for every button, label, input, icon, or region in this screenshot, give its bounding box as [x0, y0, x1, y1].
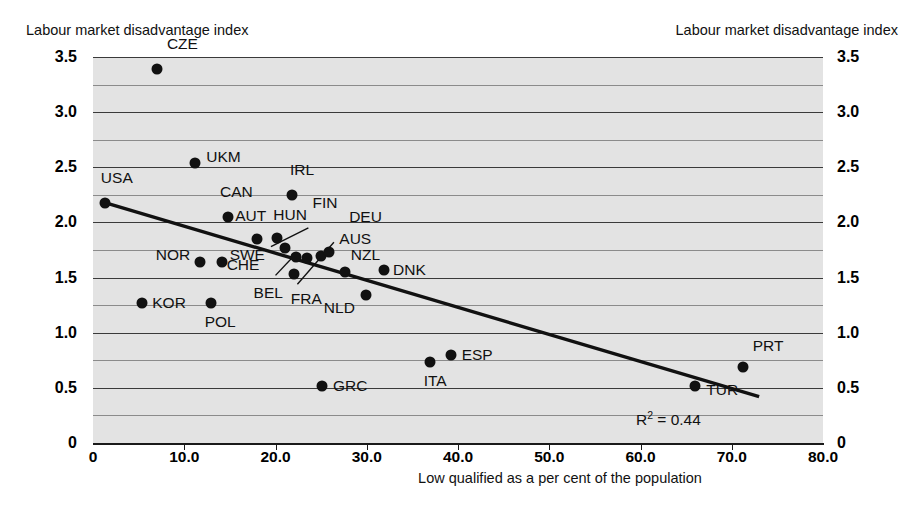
r-squared-exponent: 2 [647, 409, 653, 421]
data-point-ita [424, 357, 435, 368]
data-point-aut [252, 233, 263, 244]
data-label-nld: NLD [324, 299, 355, 317]
data-point-kor [137, 297, 148, 308]
data-label-deu: DEU [349, 208, 382, 226]
data-point-irl [286, 189, 297, 200]
x-tick-label: 30.0 [352, 448, 382, 466]
y-tick-label: 0 [837, 434, 846, 452]
data-label-ita: ITA [424, 372, 447, 390]
data-point-grc [317, 380, 328, 391]
data-label-dnk: DNK [393, 261, 426, 279]
plot-area: CZEUKMIRLUSACANAUTHUNCHENORSWEBELFRADEUF… [93, 57, 823, 443]
r-squared-annotation: R2 = 0.44 [636, 409, 701, 429]
data-label-fra: FRA [291, 290, 322, 308]
data-point-nzl [339, 267, 350, 278]
y-tick-label: 3.5 [55, 48, 77, 66]
data-point-aus [324, 247, 335, 258]
data-point-cze [151, 64, 162, 75]
data-point-esp [445, 349, 456, 360]
data-point-fin [301, 252, 312, 263]
y-tick-label: 1.5 [837, 269, 859, 287]
data-point-bel [290, 251, 301, 262]
data-label-tur: TUR [706, 381, 738, 399]
x-tick-label: 0 [89, 448, 98, 466]
y-tick-label: 2.0 [837, 213, 859, 231]
data-point-ukm [190, 157, 201, 168]
data-label-ukm: UKM [206, 148, 240, 166]
x-tick [732, 443, 733, 450]
data-point-can [223, 211, 234, 222]
y-tick-label: 1.0 [55, 324, 77, 342]
data-label-nor: NOR [156, 246, 190, 264]
data-point-nor [194, 257, 205, 268]
y-tick-label: 2.0 [55, 213, 77, 231]
data-point-pol [205, 297, 216, 308]
data-point-che [279, 242, 290, 253]
y-tick-label: 0.5 [55, 379, 77, 397]
y-tick-label: 1.0 [837, 324, 859, 342]
y-tick-label: 0 [68, 434, 77, 452]
data-label-grc: GRC [333, 377, 367, 395]
x-axis-title-text: Low qualified as a per cent of the popul… [418, 470, 702, 486]
x-tick-label: 20.0 [260, 448, 290, 466]
data-point-prt [737, 361, 748, 372]
data-point-usa [99, 197, 110, 208]
x-tick-label: 40.0 [443, 448, 473, 466]
x-tick-label: 80.0 [808, 448, 838, 466]
r-squared-value: = 0.44 [657, 411, 701, 428]
x-tick [276, 443, 277, 450]
data-label-nzl: NZL [351, 246, 380, 264]
data-label-kor: KOR [152, 294, 186, 312]
x-tick-label: 50.0 [534, 448, 564, 466]
x-tick-label: 10.0 [169, 448, 199, 466]
x-tick-label: 70.0 [717, 448, 747, 466]
data-label-swe: SWE [230, 246, 265, 264]
y-tick-label: 3.0 [837, 103, 859, 121]
y-axis-title-right: Labour market disadvantage index [676, 22, 898, 38]
y-axis-title-left: Labour market disadvantage index [26, 22, 248, 38]
data-label-irl: IRL [290, 161, 314, 179]
y-tick-label: 1.5 [55, 269, 77, 287]
data-point-fra [288, 269, 299, 280]
r-squared-symbol: R [636, 411, 647, 428]
data-label-prt: PRT [753, 337, 784, 355]
data-label-usa: USA [101, 169, 133, 187]
x-tick [641, 443, 642, 450]
x-tick-label: 60.0 [625, 448, 655, 466]
chart-figure: Labour market disadvantage index Labour … [0, 0, 920, 520]
data-label-cze: CZE [167, 35, 198, 53]
data-label-hun: HUN [273, 206, 307, 224]
data-label-bel: BEL [254, 284, 283, 302]
x-axis-title: Low qualified as a per cent of the popul… [0, 470, 920, 486]
data-label-pol: POL [205, 313, 236, 331]
y-tick-label: 2.5 [837, 158, 859, 176]
y-tick-label: 3.0 [55, 103, 77, 121]
data-label-esp: ESP [462, 346, 493, 364]
y-tick-label: 0.5 [837, 379, 859, 397]
x-tick [458, 443, 459, 450]
data-label-aut: AUT [235, 207, 266, 225]
data-point-dnk [379, 264, 390, 275]
y-tick-label: 3.5 [837, 48, 859, 66]
data-point-swe [216, 257, 227, 268]
data-label-can: CAN [220, 183, 253, 201]
data-point-tur [690, 380, 701, 391]
x-tick [549, 443, 550, 450]
y-tick-label: 2.5 [55, 158, 77, 176]
data-point-nld [360, 290, 371, 301]
data-label-fin: FIN [313, 194, 338, 212]
data-point-hun [272, 232, 283, 243]
x-tick [367, 443, 368, 450]
x-tick [184, 443, 185, 450]
